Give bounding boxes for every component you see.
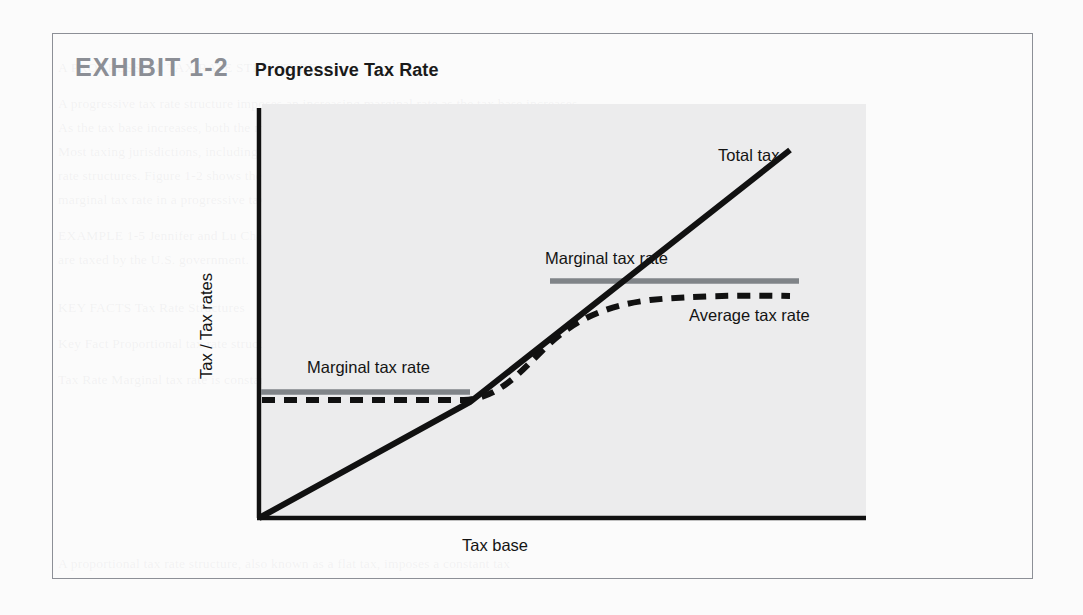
marginal-tax-rate-lower-label: Marginal tax rate: [307, 358, 430, 377]
exhibit-number: EXHIBIT 1-2: [75, 53, 229, 82]
y-axis-label: Tax / Tax rates: [197, 236, 216, 416]
x-axis-label: Tax base: [462, 536, 528, 555]
page-title: Progressive Tax Rate: [255, 60, 439, 81]
marginal-tax-rate-upper-label: Marginal tax rate: [545, 249, 668, 268]
average-tax-rate-label: Average tax rate: [689, 306, 810, 325]
exhibit-header: EXHIBIT 1-2 Progressive Tax Rate: [75, 53, 439, 82]
page-root: A PROGRESSIVE TAX RATE STRUCTURE A progr…: [0, 0, 1083, 615]
total-tax-label: Total tax: [718, 146, 779, 165]
